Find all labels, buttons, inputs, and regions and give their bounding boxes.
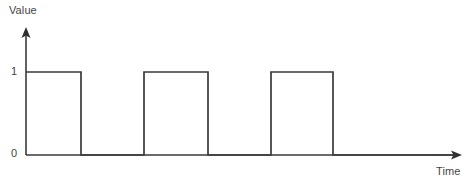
chart-canvas: Value Time 1 0: [0, 0, 470, 182]
y-tick-label-zero: 0: [11, 147, 17, 159]
y-tick-label-one: 1: [11, 65, 17, 77]
y-axis-label: Value: [9, 4, 37, 16]
waveform-trace: [26, 72, 456, 155]
x-axis-label: Time: [436, 165, 460, 177]
square-wave-plot: [0, 0, 470, 182]
